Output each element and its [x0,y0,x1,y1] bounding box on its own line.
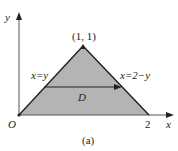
figure-caption: (a) [82,135,94,146]
origin-dot [17,113,20,116]
x-tick-label-2: 2 [145,119,151,130]
y-axis-label: y [5,12,10,23]
apex-label: (1, 1) [72,31,96,42]
left-edge-label: x=y [31,70,48,81]
region-diagram: y x O (1, 1) 2 x=y x=2−y D (a) [0,0,178,151]
origin-label: O [8,119,16,130]
y-axis-arrow-icon [16,12,22,20]
x-axis-label: x [166,119,171,130]
right-edge-label: x=2−y [120,70,150,81]
diagram-graphics [0,0,178,151]
apex-marker-icon [80,44,86,49]
region-label: D [78,92,86,103]
